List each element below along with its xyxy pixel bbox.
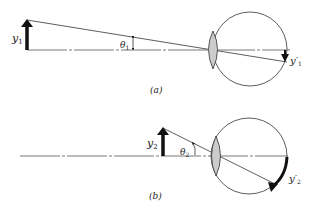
eye-angular-size-diagram: y1 θ1 y′1 (a) y2 θ2 y′2 (b)	[0, 0, 315, 213]
object-label-a: y1	[11, 32, 23, 46]
image-arrow-b	[273, 157, 287, 186]
angle-label-a: θ1	[120, 40, 129, 51]
panel-b: y2 θ2 y′2 (b)	[20, 118, 301, 201]
image-label-b: y′2	[288, 173, 301, 185]
panel-a: y1 θ1 y′1 (a)	[11, 12, 302, 95]
lens-b	[212, 136, 221, 176]
angle-marker-b	[193, 143, 195, 155]
caption-a: (a)	[150, 85, 163, 95]
chief-ray-a	[27, 20, 287, 62]
image-label-a: y′1	[289, 55, 302, 67]
angle-label-b: θ2	[180, 147, 189, 158]
caption-b: (b)	[149, 191, 162, 201]
eyeball-a	[213, 12, 287, 86]
object-label-b: y2	[146, 137, 158, 151]
